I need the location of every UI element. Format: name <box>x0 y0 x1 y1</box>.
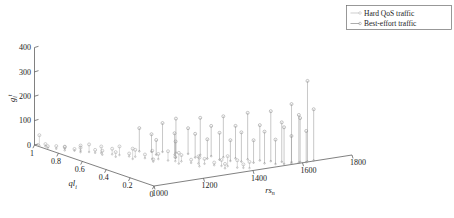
figure-3d-stem-plot: 0100200300400git10.80.60.40.20qli1000120… <box>0 0 454 218</box>
tick-label-g-300: 300 <box>19 68 31 77</box>
tick-g-400 <box>35 46 39 47</box>
tick-label-rs-1800: 1800 <box>350 158 366 167</box>
axis-title-ql: qli <box>69 178 78 190</box>
tick-label-g-200: 200 <box>19 92 31 101</box>
svg-text:git: git <box>7 94 18 102</box>
tick-label-rs-1400: 1400 <box>251 174 267 183</box>
figure-caption <box>0 209 454 218</box>
series-2-stems <box>138 79 315 164</box>
tick-label-rs-1000: 1000 <box>152 189 168 198</box>
tick-label-ql-0.4: 0.4 <box>99 173 109 182</box>
series-1-stems <box>38 134 251 169</box>
tick-g-100 <box>35 119 39 120</box>
legend-group[interactable]: Hard QoS trafficBest-effort traffic <box>347 6 452 30</box>
tick-label-ql-0.8: 0.8 <box>51 157 61 166</box>
tick-label-g-400: 400 <box>19 43 31 52</box>
tick-label-rs-1200: 1200 <box>202 181 218 190</box>
stems-group <box>38 79 315 169</box>
tick-g-0 <box>35 144 39 145</box>
tick-label-ql-0.2: 0.2 <box>123 181 133 190</box>
tick-label-rs-1600: 1600 <box>301 166 317 175</box>
tick-label-g-100: 100 <box>19 116 31 125</box>
tick-labels-group: 0100200300400git10.80.60.40.20qli1000120… <box>7 43 367 198</box>
axis-title-rs: rsn <box>265 185 275 197</box>
tick-g-300 <box>35 71 39 72</box>
tick-label-ql-1: 1 <box>30 149 34 158</box>
tick-g-200 <box>35 95 39 96</box>
tick-label-ql-0.6: 0.6 <box>75 165 85 174</box>
plot-canvas: 0100200300400git10.80.60.40.20qli1000120… <box>0 0 454 218</box>
legend-item-label: Best-effort traffic <box>364 19 417 28</box>
axis-title-g: git <box>7 94 18 102</box>
legend-item-label: Hard QoS traffic <box>364 9 415 18</box>
